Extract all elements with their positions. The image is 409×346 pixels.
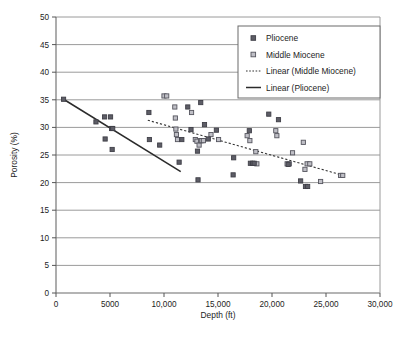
data-point [174,132,178,136]
data-point [248,139,252,143]
data-point [174,127,178,131]
data-point [245,134,249,138]
data-point [274,129,278,133]
data-point [254,150,258,154]
data-point [214,128,218,132]
data-point [180,137,184,141]
data-point [202,123,206,127]
data-point [195,149,199,153]
data-point [196,178,200,182]
data-point [286,162,290,166]
y-tick-label-15: 15 [40,206,50,215]
legend-label-pliocene[interactable]: Pliocene [266,33,298,43]
legend-label-middle-miocene[interactable]: Middle Miocene [266,50,325,60]
y-tick-label-50: 50 [40,13,50,22]
y-tick-label-5: 5 [44,261,49,270]
y-tick-label-25: 25 [40,151,50,160]
data-point [199,100,203,104]
data-point [247,129,251,133]
data-point [103,137,107,141]
data-point [201,139,205,143]
data-point [61,97,65,101]
data-point [108,115,112,119]
data-point [189,128,193,132]
y-tick-label-45: 45 [40,41,50,50]
y-axis-title: Porosity (%) [9,132,19,178]
legend-label-linear-middle-miocene[interactable]: Linear (Middle Miocene) [266,66,356,76]
data-point [299,179,303,183]
data-point [147,110,151,114]
data-point [186,105,190,109]
data-point [173,105,177,109]
data-point [158,143,162,147]
data-point [276,118,280,122]
data-point [319,179,323,183]
data-point [341,173,345,177]
x-tick-label-20000: 20,000 [259,300,284,309]
data-point [165,94,169,98]
chart-legend[interactable]: PlioceneMiddle MioceneLinear (Middle Mio… [238,26,380,98]
x-tick-label-30000: 30,000 [367,300,392,309]
x-axis-title: Depth (ft) [201,310,236,320]
data-point [189,110,193,114]
data-point [308,162,312,166]
y-tick-label-0: 0 [44,289,49,298]
data-point [175,137,179,141]
data-point [301,140,305,144]
data-point [103,115,107,119]
data-point [147,137,151,141]
data-point [290,151,294,155]
x-tick-label-5000: 5000 [101,300,120,309]
data-point [303,167,307,171]
data-point [206,137,210,141]
data-point [197,143,201,147]
y-tick-label-40: 40 [40,68,50,77]
data-point [232,156,236,160]
data-point [94,120,98,124]
y-tick-label-20: 20 [40,179,50,188]
y-tick-label-35: 35 [40,96,50,105]
data-point [216,137,220,141]
data-point [252,161,256,165]
data-point [110,147,114,151]
data-point [267,112,271,116]
x-tick-label-15000: 15,000 [205,300,230,309]
legend-marker-pliocene [251,36,256,41]
y-tick-label-30: 30 [40,123,50,132]
figure-container: 05101520253035404550 0500010,00015,00020… [0,0,409,346]
data-point [306,184,310,188]
data-point [111,126,115,130]
data-point [173,116,177,120]
x-tick-label-10000: 10,000 [151,300,176,309]
x-tick-label-25000: 25,000 [313,300,338,309]
x-tick-label-0: 0 [54,300,59,309]
data-point [275,134,279,138]
data-point [231,173,235,177]
porosity-depth-scatter-chart: 05101520253035404550 0500010,00015,00020… [0,0,409,346]
data-point [177,160,181,164]
data-point [209,132,213,136]
legend-label-linear-pliocene[interactable]: Linear (Pliocene) [266,83,330,93]
y-tick-label-10: 10 [40,234,50,243]
legend-marker-middle-miocene [251,52,256,57]
